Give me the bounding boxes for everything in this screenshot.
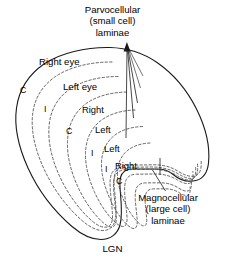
eye-letter-c-3: C [116,176,122,186]
callout-magnocellular-line3: laminae [117,215,219,226]
callout-parvocellular-line1: Parvocellular [0,4,225,15]
lamina-label-right-eye: Right eye [39,56,80,67]
lamina-label-left-1: Left [95,124,111,135]
callout-parvocellular-line2: (small cell) [0,15,225,26]
eye-letter-i-2: I [91,148,93,158]
eye-letter-i-3: I [105,164,107,174]
eye-letter-i-1: I [44,104,46,114]
lamina-label-left-2: Left [104,143,120,154]
callout-parvocellular-line3: laminae [0,27,225,38]
callout-magnocellular-line2: (large cell) [117,203,219,214]
lamina-label-left-eye: Left eye [63,81,97,92]
callout-parvocellular: Parvocellular (small cell) laminae [0,4,225,38]
lgn-drawing [0,0,225,266]
lgn-diagram: Parvocellular (small cell) laminae Magno… [0,0,225,266]
lamina-label-right-1: Right [82,104,104,115]
figure-caption-lgn: LGN [0,243,225,255]
callout-magnocellular: Magnocellular (large cell) laminae [117,192,219,226]
callout-magnocellular-line1: Magnocellular [117,192,219,203]
parvocellular-arrow-head [124,42,131,52]
parvocellular-leader-lines [124,42,143,138]
eye-letter-c-2: C [66,126,72,136]
lamina-label-right-2: Right [115,160,137,171]
eye-letter-c-1: C [20,85,26,95]
